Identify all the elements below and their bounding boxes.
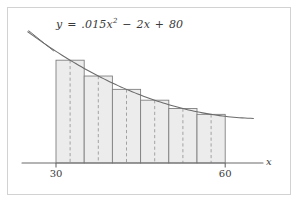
x-axis-label: x [266, 156, 272, 167]
equation-leader-line [29, 31, 54, 51]
equation-plus: + [154, 18, 165, 31]
x-tick-label-30: 30 [45, 168, 67, 179]
x-axis-ticks [56, 163, 225, 168]
equation-lhs: y [56, 18, 62, 31]
equation-coef-linear: 2 [136, 18, 143, 31]
equation-minus: − [121, 18, 132, 31]
equation-exponent: 2 [113, 17, 118, 25]
equation-coef-quadratic: .015 [81, 18, 106, 31]
equation-constant: 80 [169, 18, 183, 31]
equation-equals: = [66, 18, 77, 31]
equation-annotation: y = .015x2 − 2x + 80 [56, 18, 183, 31]
figure-root: y = .015x2 − 2x + 80 30 60 x [0, 0, 299, 203]
equation-var-linear: x [144, 18, 150, 31]
x-tick-label-60: 60 [214, 168, 236, 179]
midpoint-rectangles [56, 60, 225, 163]
